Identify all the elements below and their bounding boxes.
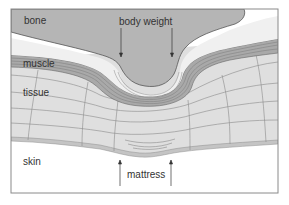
- label-body-weight: body weight: [119, 17, 172, 27]
- label-muscle: muscle: [23, 59, 55, 69]
- label-bone: bone: [24, 16, 46, 26]
- label-tissue: tissue: [23, 88, 49, 98]
- label-skin: skin: [23, 157, 41, 167]
- label-mattress: mattress: [127, 170, 165, 180]
